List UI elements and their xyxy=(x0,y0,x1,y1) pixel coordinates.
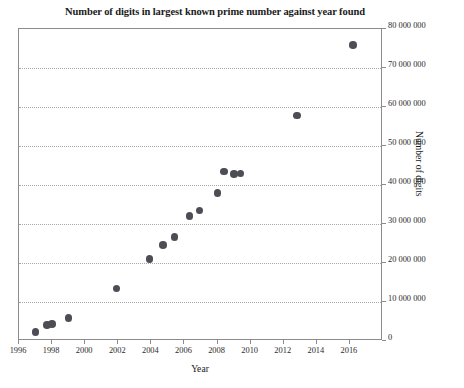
x-tick-mark xyxy=(84,340,85,344)
x-tick-mark xyxy=(183,340,184,344)
data-point xyxy=(186,212,194,220)
x-tick-mark xyxy=(316,340,317,344)
x-tick-mark xyxy=(250,340,251,344)
data-point xyxy=(159,241,167,249)
x-tick-mark xyxy=(18,340,19,344)
x-tick-label: 2002 xyxy=(109,346,126,355)
x-tick-mark xyxy=(283,340,284,344)
x-tick-mark xyxy=(217,340,218,344)
y-tick-mark xyxy=(382,301,386,302)
x-tick-label: 1996 xyxy=(10,346,27,355)
data-point xyxy=(32,328,40,336)
y-axis-label: Number of digits xyxy=(414,131,425,197)
data-point xyxy=(349,41,357,49)
gridline xyxy=(19,68,381,69)
y-tick-label: 70 000 000 xyxy=(388,60,426,69)
x-tick-mark xyxy=(349,340,350,344)
gridline xyxy=(19,146,381,147)
x-axis-label: Year xyxy=(18,363,382,374)
x-tick-label: 2006 xyxy=(175,346,192,355)
x-tick-label: 2010 xyxy=(241,346,258,355)
gridline xyxy=(19,224,381,225)
gridline xyxy=(19,302,381,303)
y-tick-mark xyxy=(382,67,386,68)
data-point xyxy=(146,255,154,263)
y-tick-mark xyxy=(382,28,386,29)
gridline xyxy=(19,107,381,108)
data-point xyxy=(293,112,301,120)
y-tick-label: 30 000 000 xyxy=(388,216,426,225)
data-point xyxy=(214,189,222,197)
x-tick-mark xyxy=(117,340,118,344)
x-tick-label: 2012 xyxy=(274,346,291,355)
x-tick-label: 2000 xyxy=(76,346,93,355)
data-point xyxy=(48,320,56,328)
x-tick-label: 2016 xyxy=(341,346,358,355)
data-point xyxy=(237,170,245,178)
x-tick-mark xyxy=(51,340,52,344)
y-tick-label: 10 000 000 xyxy=(388,294,426,303)
plot-area xyxy=(18,28,382,340)
data-point xyxy=(171,233,179,241)
scatter-chart: Number of digits in largest known prime … xyxy=(0,0,464,388)
gridline xyxy=(19,263,381,264)
data-point xyxy=(220,168,228,176)
y-tick-label: 60 000 000 xyxy=(388,99,426,108)
x-tick-label: 2014 xyxy=(307,346,324,355)
y-tick-label: 0 xyxy=(388,333,392,342)
y-tick-label: 80 000 000 xyxy=(388,21,426,30)
y-tick-mark xyxy=(382,340,386,341)
x-tick-label: 1998 xyxy=(43,346,60,355)
data-point xyxy=(196,207,204,215)
gridline xyxy=(19,185,381,186)
data-point xyxy=(65,314,73,322)
chart-title: Number of digits in largest known prime … xyxy=(0,6,430,17)
x-tick-label: 2008 xyxy=(208,346,225,355)
y-tick-label: 20 000 000 xyxy=(388,255,426,264)
x-tick-label: 2004 xyxy=(142,346,159,355)
y-tick-mark xyxy=(382,106,386,107)
y-tick-mark xyxy=(382,184,386,185)
data-point xyxy=(230,170,238,178)
data-point xyxy=(113,285,121,293)
y-tick-mark xyxy=(382,223,386,224)
y-tick-mark xyxy=(382,262,386,263)
y-tick-mark xyxy=(382,145,386,146)
x-tick-mark xyxy=(150,340,151,344)
